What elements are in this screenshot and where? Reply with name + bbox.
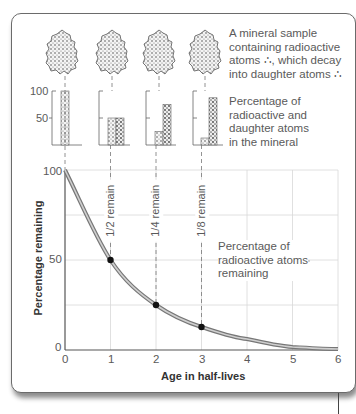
- x-tick-5: 5: [290, 353, 296, 367]
- y-axis-title: Percentage remaining: [32, 193, 44, 323]
- curve-caption: Percentage of radioactive atoms remainin…: [218, 240, 308, 281]
- y-tick-50: 50: [49, 253, 62, 267]
- point-quarter: [153, 302, 159, 308]
- point-eighth: [198, 324, 204, 330]
- bar-tick-50: 50: [36, 112, 48, 126]
- x-tick-1: 1: [108, 353, 114, 367]
- bar-caption: Percentage of radioactive and daughter a…: [229, 95, 309, 149]
- bar-tick-100: 100: [30, 85, 48, 99]
- half-remain-label: 1/2 remain: [104, 180, 118, 242]
- point-half: [107, 257, 113, 263]
- mineral-sample-icon: [96, 30, 128, 74]
- x-tick-4: 4: [244, 353, 250, 367]
- y-tick-100: 100: [43, 165, 62, 179]
- x-tick-3: 3: [199, 353, 205, 367]
- mineral-sample-icon: [46, 30, 78, 74]
- y-tick-0: 0: [55, 341, 61, 355]
- x-axis-title: Age in half-lives: [161, 370, 245, 382]
- mineral-sample-icon: [143, 30, 175, 74]
- eighth-remain-label: 1/8 remain: [195, 180, 209, 242]
- mineral-caption: A mineral sample containing radioactive …: [229, 27, 342, 81]
- x-tick-6: 6: [335, 353, 341, 367]
- quarter-remain-label: 1/4 remain: [149, 180, 163, 242]
- mineral-sample-icon: [189, 30, 221, 74]
- x-tick-0: 0: [62, 353, 68, 367]
- x-tick-2: 2: [153, 353, 159, 367]
